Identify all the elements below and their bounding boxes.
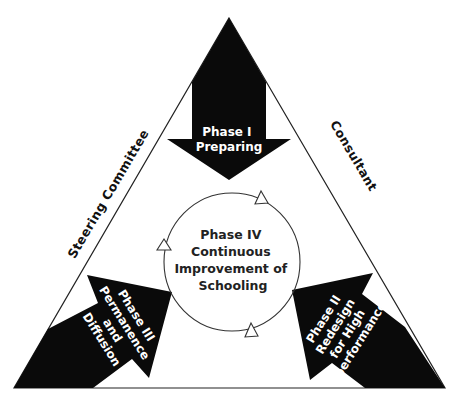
left-side-label: Steering Committee <box>64 127 152 261</box>
phase-1-label-line-1: Phase I <box>202 125 251 139</box>
phase-4-label-line-3: Improvement of <box>174 261 287 276</box>
phase-2-arrow: Phase II Redesign for High performance <box>292 273 445 388</box>
phase-1-label-line-2: Preparing <box>196 140 263 154</box>
phase-4-label-line-2: Continuous <box>191 244 271 259</box>
phase-diagram: Phase I Preparing Phase III Permanence a… <box>0 0 454 401</box>
phase-4-cycle: Phase IV Continuous Improvement of Schoo… <box>157 191 300 337</box>
cycle-arrowhead-left <box>157 239 171 250</box>
svg-text:Phase IV Continuous: Phase IV Continuous Improvement of Schoo… <box>174 227 291 293</box>
svg-text:Phase I Preparing: Phase I Preparing <box>196 125 263 154</box>
phase-3-arrow: Phase III Permanence and Diffusion <box>14 275 172 388</box>
phase-4-label-line-4: Schooling <box>199 278 268 293</box>
phase-1-arrow-shape <box>167 18 291 180</box>
phase-4-label-line-1: Phase IV <box>200 227 261 242</box>
phase-1-arrow: Phase I Preparing <box>167 18 291 180</box>
right-side-label: Consultant <box>327 118 380 194</box>
